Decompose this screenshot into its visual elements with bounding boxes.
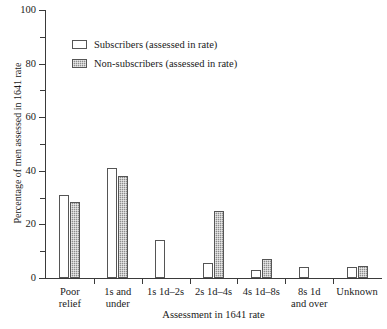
legend-entry-non-subscribers: Non-subscribers (assessed in rate) — [72, 55, 237, 71]
y-axis-tick-label: 60 — [10, 112, 36, 123]
y-axis-tick-major — [39, 117, 45, 118]
x-axis-category-label: 4s 1d–8s — [237, 286, 285, 298]
bar — [358, 266, 368, 278]
y-axis-tick-minor — [40, 144, 45, 145]
bar — [70, 202, 80, 278]
legend-swatch-non-subscribers — [72, 59, 87, 68]
x-axis-tick — [190, 279, 191, 284]
y-axis-tick-minor — [40, 90, 45, 91]
x-axis-line — [45, 278, 382, 279]
y-axis-tick-major — [39, 224, 45, 225]
legend-swatch-subscribers — [72, 40, 87, 49]
y-axis-tick-label: 40 — [10, 166, 36, 177]
x-axis-category-label: Poor relief — [46, 286, 94, 309]
bar — [203, 263, 213, 278]
chart-legend: Subscribers (assessed in rate) Non-subsc… — [72, 36, 237, 74]
bar — [347, 267, 357, 278]
y-axis-tick-minor — [40, 251, 45, 252]
y-axis-tick-major — [39, 171, 45, 172]
bar — [118, 176, 128, 278]
legend-label-subscribers: Subscribers (assessed in rate) — [94, 39, 217, 50]
x-axis-category-label: 1s and under — [94, 286, 142, 309]
x-axis-category-label: 8s 1d and over — [285, 286, 333, 309]
bar — [107, 168, 117, 278]
x-axis-category-label: Unknown — [333, 286, 381, 298]
x-axis-tick — [333, 279, 334, 284]
legend-entry-subscribers: Subscribers (assessed in rate) — [72, 36, 237, 52]
bar-chart: Percentage of men assessed in 1641 rate … — [0, 0, 387, 329]
bar — [299, 267, 309, 278]
y-axis-tick-label: 100 — [10, 5, 36, 16]
bar — [214, 211, 224, 278]
legend-label-non-subscribers: Non-subscribers (assessed in rate) — [94, 58, 237, 69]
y-axis-tick-minor — [40, 37, 45, 38]
bar — [251, 270, 261, 278]
y-axis-tick-major — [39, 64, 45, 65]
y-axis-tick-major — [39, 10, 45, 11]
bar — [155, 240, 165, 278]
x-axis-tick — [142, 279, 143, 284]
bar — [262, 259, 272, 278]
x-axis-category-label: 2s 1d–4s — [190, 286, 238, 298]
y-axis-tick-label: 20 — [10, 219, 36, 230]
y-axis-tick-minor — [40, 198, 45, 199]
bar — [59, 195, 69, 278]
y-axis-tick-label: 80 — [10, 59, 36, 70]
y-axis-title: Percentage of men assessed in 1641 rate — [13, 13, 23, 273]
x-axis-tick — [94, 279, 95, 284]
x-axis-category-label: 1s 1d–2s — [142, 286, 190, 298]
x-axis-tick — [237, 279, 238, 284]
y-axis-tick-label: 0 — [10, 273, 36, 284]
x-axis-tick — [285, 279, 286, 284]
y-axis-tick-major — [39, 278, 45, 279]
x-axis-title: Assessment in 1641 rate — [46, 309, 381, 320]
